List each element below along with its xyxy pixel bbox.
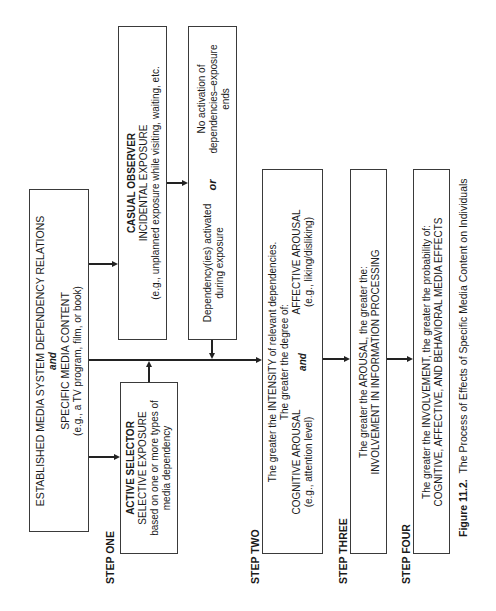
active-selector-subtitle: SELECTIVE EXPOSURE	[137, 411, 149, 524]
step-three-line1: The greater the AROUSAL, the greater the…	[357, 266, 369, 458]
cognitive-arousal-title: COGNITIVE AROUSAL	[290, 409, 302, 514]
arrow-trunk-to-step-two	[89, 359, 256, 361]
step-two-text: The greater the INTENSITY of relevant de…	[262, 169, 323, 554]
affective-arousal-title: AFFECTIVE AROUSAL	[290, 209, 302, 314]
arrowhead-icon	[209, 353, 215, 359]
arousal-connector: and	[296, 353, 308, 371]
active-selector-text: ACTIVE SELECTOR SELECTIVE EXPOSURE based…	[120, 382, 178, 554]
source-line1: ESTABLISHED MEDIA SYSTEM DEPENDENCY RELA…	[34, 215, 47, 506]
step-four-text: The greater the INVOLVEMENT, the greater…	[413, 169, 450, 554]
cognitive-arousal-example: (e.g., attention level)	[302, 416, 314, 507]
arrowhead-icon	[407, 356, 413, 362]
step-three-box: The greater the AROUSAL, the greater the…	[350, 169, 387, 554]
step-two-line1: The greater the INTENSITY of relevant de…	[266, 241, 278, 482]
arrowhead-icon	[182, 180, 188, 186]
step-two-label: STEP TWO	[249, 529, 261, 584]
active-selector-box: ACTIVE SELECTOR SELECTIVE EXPOSURE based…	[120, 382, 178, 554]
no-activation-line2: dependencies–exposure	[207, 45, 219, 154]
arrowhead-icon	[344, 356, 350, 362]
source-line3: (e.g., a TV program, film, or book)	[72, 286, 84, 436]
source-line2: SPECIFIC MEDIA CONTENT	[59, 292, 72, 430]
step-three-line2: INVOLVEMENT IN INFORMATION PROCESSING	[369, 249, 381, 474]
affective-arousal: AFFECTIVE AROUSAL (e.g., liking/dislikin…	[290, 209, 314, 314]
step-one-label: STEP ONE	[104, 531, 116, 584]
active-selector-line1: based on one or more types of	[149, 400, 161, 536]
active-selector-line2: media dependency	[161, 426, 173, 511]
no-activation-text: No activation of dependencies–exposure e…	[188, 29, 237, 169]
affective-arousal-example: (e.g., liking/disliking)	[302, 217, 314, 307]
step-three-text: The greater the AROUSAL, the greater the…	[350, 169, 387, 554]
arrowhead-icon	[114, 454, 120, 460]
figure-caption: Figure 11.2. The Process of Effects of S…	[457, 178, 469, 537]
step-two-box: The greater the INTENSITY of relevant de…	[262, 169, 323, 554]
source-box-text: ESTABLISHED MEDIA SYSTEM DEPENDENCY RELA…	[29, 189, 89, 532]
arrowhead-icon	[146, 361, 152, 367]
casual-observer-title: CASUAL OBSERVER	[125, 133, 137, 233]
no-activation-line1: No activation of	[195, 65, 207, 134]
arrow-casual-to-outcome	[167, 182, 182, 184]
step-four-box: The greater the INVOLVEMENT, the greater…	[413, 169, 450, 554]
casual-observer-text: CASUAL OBSERVER INCIDENTAL EXPOSURE (e.g…	[118, 26, 167, 340]
arrow-active-to-trunk	[148, 367, 150, 382]
casual-observer-box: CASUAL OBSERVER INCIDENTAL EXPOSURE (e.g…	[118, 26, 167, 340]
arrowhead-icon	[256, 357, 262, 363]
no-activation-line3: ends	[219, 88, 231, 110]
step-three-label: STEP THREE	[337, 518, 349, 584]
dependency-activated-line1: Dependency(ies) activated	[201, 204, 213, 322]
dependency-activated-text: Dependency(ies) activated during exposur…	[188, 188, 237, 338]
active-selector-title: ACTIVE SELECTOR	[125, 421, 137, 515]
arrow-source-to-casual	[89, 263, 113, 265]
casual-observer-subtitle: INCIDENTAL EXPOSURE	[137, 125, 149, 242]
step-four-line2: COGNITIVE, AFFECTIVE, AND BEHAVIORAL MED…	[432, 217, 444, 506]
arrow-step-two-to-three	[323, 358, 344, 360]
exposure-outcome-box: No activation of dependencies–exposure e…	[188, 26, 237, 340]
dependency-activated-line2: during exposure	[213, 227, 225, 299]
step-four-label: STEP FOUR	[400, 524, 412, 584]
cognitive-arousal: COGNITIVE AROUSAL (e.g., attention level…	[290, 409, 314, 514]
casual-observer-example: (e.g., unplanned exposure while visiting…	[149, 66, 161, 299]
figure-caption-text: The Process of Effects of Specific Media…	[457, 178, 469, 473]
step-four-line1: The greater the INVOLVEMENT, the greater…	[420, 225, 432, 499]
arrow-step-three-to-four	[387, 358, 407, 360]
arrow-source-to-active	[89, 456, 114, 458]
step-two-line2: The greater the degree of:	[278, 303, 290, 419]
figure-caption-label: Figure 11.2.	[457, 479, 469, 537]
arrow-dependency-to-trunk	[211, 340, 213, 353]
source-connector: and	[47, 352, 59, 370]
source-box: ESTABLISHED MEDIA SYSTEM DEPENDENCY RELA…	[29, 189, 89, 532]
arrowhead-icon	[112, 261, 118, 267]
